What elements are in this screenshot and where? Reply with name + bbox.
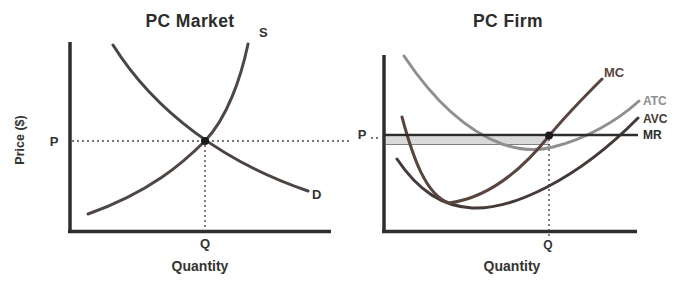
economics-diagram: PC Market Price ($) P Q Quantity S D: [0, 0, 689, 292]
supply-curve: [88, 44, 248, 214]
market-equilibrium-dot: [201, 137, 209, 145]
firm-panel-title: PC Firm: [473, 11, 543, 31]
avc-curve-label: AVC: [643, 112, 668, 126]
market-price-tick-label: P: [50, 134, 59, 149]
mc-curve-label: MC: [604, 65, 625, 80]
atc-curve-label: ATC: [643, 94, 667, 108]
avc-curve: [397, 118, 638, 208]
firm-x-axis-label: Quantity: [484, 258, 541, 274]
mr-curve-label: MR: [643, 128, 662, 142]
firm-equilibrium-dot: [545, 132, 553, 140]
diagram-canvas: PC Market Price ($) P Q Quantity S D: [0, 0, 689, 292]
market-x-axis-label: Quantity: [172, 258, 229, 274]
firm-quantity-tick-label: Q: [543, 238, 552, 252]
firm-price-tick-label: P: [358, 127, 367, 142]
market-quantity-tick-label: Q: [200, 236, 210, 251]
market-y-axis-label: Price ($): [13, 115, 27, 164]
firm-panel: PC Firm P MC ATC AVC: [358, 11, 668, 274]
supply-curve-label: S: [259, 25, 268, 40]
market-panel-title: PC Market: [145, 11, 234, 31]
demand-curve: [113, 45, 308, 191]
market-panel: PC Market Price ($) P Q Quantity S D: [13, 11, 381, 274]
demand-curve-label: D: [312, 187, 321, 202]
